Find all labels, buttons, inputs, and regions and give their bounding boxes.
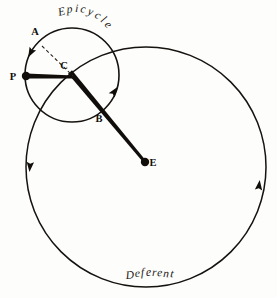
epicycle-direction-arrowhead bbox=[25, 47, 36, 59]
point-label-b: B bbox=[95, 113, 102, 124]
guide-A-to-C-line bbox=[42, 46, 73, 76]
astronomy-diagram-svg: ECPAB EpicycleDeferent bbox=[0, 0, 277, 298]
diagram-canvas: ECPAB EpicycleDeferent bbox=[0, 0, 277, 298]
deferent-direction-left-arrow-shape bbox=[26, 162, 34, 173]
deferent-circle bbox=[26, 47, 266, 287]
deferent-label-char-5: e bbox=[157, 266, 163, 278]
deferent-label-char-6: n bbox=[163, 267, 170, 279]
epicycle-label-char-1: p bbox=[65, 2, 73, 16]
deferent-label-char-7: t bbox=[170, 267, 175, 279]
deferent-direction-upper-arrow-shape bbox=[109, 85, 121, 97]
curved-text-labels-group: EpicycleDeferent bbox=[56, 2, 175, 281]
point-marker-e bbox=[141, 158, 149, 166]
deferent-label-char-0: D bbox=[124, 268, 135, 281]
point-label-c: C bbox=[60, 60, 68, 71]
deferent-label-char-1: e bbox=[134, 267, 140, 279]
deferent-label-char-3: e bbox=[146, 266, 151, 278]
point-label-a: A bbox=[31, 26, 39, 37]
epicycle-label-char-0: E bbox=[56, 5, 67, 19]
deferent-label: Deferent bbox=[124, 266, 175, 281]
deferent-direction-right-arrowhead bbox=[255, 180, 264, 191]
point-label-p: P bbox=[10, 71, 17, 82]
epicycle-label: Epicycle bbox=[56, 2, 115, 30]
deferent-direction-upper-arrowhead bbox=[109, 85, 121, 97]
center-to-earth-segment bbox=[68, 70, 146, 163]
planet-radius-segment bbox=[26, 73, 74, 78]
deferent-direction-left-arrowhead bbox=[26, 162, 34, 173]
point-marker-p bbox=[22, 72, 30, 80]
epicycle-direction-arrow-shape bbox=[25, 47, 36, 59]
epicycle-label-char-3: c bbox=[80, 2, 87, 15]
point-label-e: E bbox=[149, 157, 156, 168]
deferent-direction-right-arrow-shape bbox=[255, 180, 264, 191]
point-markers-group bbox=[22, 72, 149, 166]
epicycle-label-char-2: i bbox=[75, 2, 79, 14]
